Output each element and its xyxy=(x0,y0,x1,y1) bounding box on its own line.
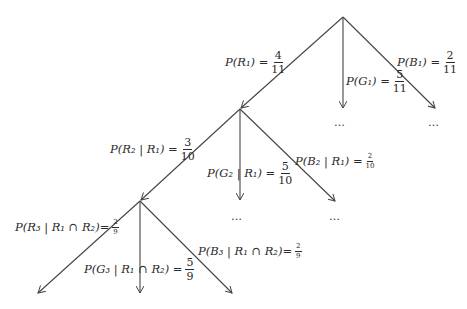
label-p-b3-given-r1-r2: P(B₃ | R₁ ∩ R₂)= 29 xyxy=(198,243,302,260)
label-p-g3-given-r1-r2: P(G₃ | R₁ ∩ R₂) = 59 xyxy=(84,257,194,282)
tree-branches xyxy=(0,0,467,309)
label-p-r1: P(R₁) = 411 xyxy=(225,50,285,75)
ellipsis-g2: … xyxy=(231,210,242,223)
label-p-g2-given-r1: P(G₂ | R₁) = 510 xyxy=(207,161,292,186)
ellipsis-b2: … xyxy=(329,210,340,223)
label-p-r3-given-r1-r2: P(R₃ | R₁ ∩ R₂)= 29 xyxy=(15,219,119,236)
ellipsis-g1: … xyxy=(334,116,345,129)
label-p-b2-given-r1: P(B₂ | R₁) = 210 xyxy=(295,153,374,170)
ellipsis-b1: … xyxy=(428,116,439,129)
label-p-r2-given-r1: P(R₂ | R₁) = 310 xyxy=(110,137,195,162)
label-p-b1: P(B₁) = 211 xyxy=(397,50,457,75)
probability-tree-diagram: P(R₁) = 411 P(G₁) = 511 P(B₁) = 211 P(R₂… xyxy=(0,0,467,309)
